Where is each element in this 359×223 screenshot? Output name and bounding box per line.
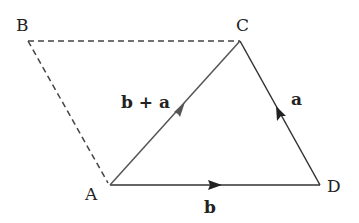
- arrowhead-a-icon: [276, 106, 286, 121]
- point-label-C: C: [236, 17, 249, 34]
- arrowhead-b-icon: [208, 180, 222, 190]
- arrowhead-b-plus-a-icon: [174, 102, 185, 117]
- point-label-B: B: [16, 17, 29, 34]
- point-label-A: A: [85, 186, 97, 203]
- vector-label-b: b: [204, 199, 216, 216]
- vector-b-plus-a-AC: [110, 41, 240, 185]
- vector-label-a: a: [291, 91, 302, 108]
- vector-label-b-plus-a: b + a: [121, 94, 170, 111]
- vector-diagram: [0, 0, 359, 223]
- point-label-D: D: [327, 178, 341, 195]
- edge-AB-dashed: [28, 41, 108, 183]
